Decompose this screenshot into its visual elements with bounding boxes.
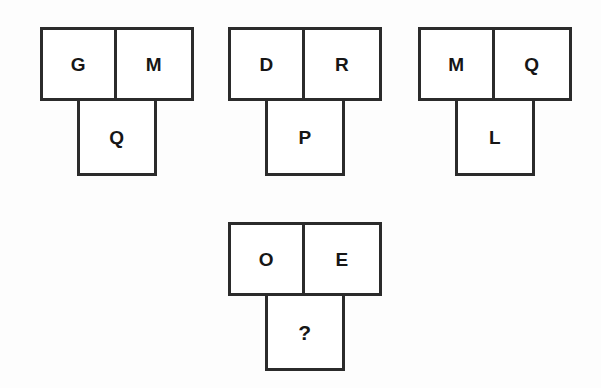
cell-label-group3-top-left: M [448, 55, 464, 74]
cell-label-group4-bottom-answer: ? [298, 322, 311, 343]
figure-group-4-question: O E ? [228, 222, 383, 373]
figure-group-1: G M Q [40, 27, 195, 176]
figure-group-2: D R P [228, 27, 383, 176]
cell-label-group1-top-left: G [71, 55, 86, 74]
cell-group3-top-left: M [418, 27, 495, 101]
cell-group3-bottom: L [455, 98, 535, 176]
cell-group4-bottom-answer[interactable]: ? [265, 293, 345, 371]
cell-label-group2-top-right: R [335, 55, 349, 74]
cell-group4-top-right: E [302, 222, 382, 296]
cell-label-group1-bottom: Q [109, 128, 124, 147]
cell-label-group3-top-right: Q [524, 55, 539, 74]
cell-label-group2-top-left: D [259, 55, 273, 74]
cell-group1-top-left: G [40, 27, 117, 101]
cell-group3-top-right: Q [492, 27, 572, 101]
cell-group1-top-right: M [114, 27, 194, 101]
puzzle-canvas: G M Q D R P M Q L O [0, 0, 601, 388]
cell-label-group4-top-left: O [259, 250, 274, 269]
cell-label-group4-top-right: E [335, 250, 348, 269]
cell-group1-bottom: Q [77, 98, 157, 176]
cell-group2-bottom: P [265, 98, 345, 176]
cell-group2-top-right: R [302, 27, 382, 101]
cell-group2-top-left: D [228, 27, 305, 101]
cell-label-group1-top-right: M [146, 55, 162, 74]
cell-label-group3-bottom: L [489, 128, 501, 147]
figure-group-3: M Q L [418, 27, 573, 176]
cell-label-group2-bottom: P [298, 128, 311, 147]
cell-group4-top-left: O [228, 222, 305, 296]
